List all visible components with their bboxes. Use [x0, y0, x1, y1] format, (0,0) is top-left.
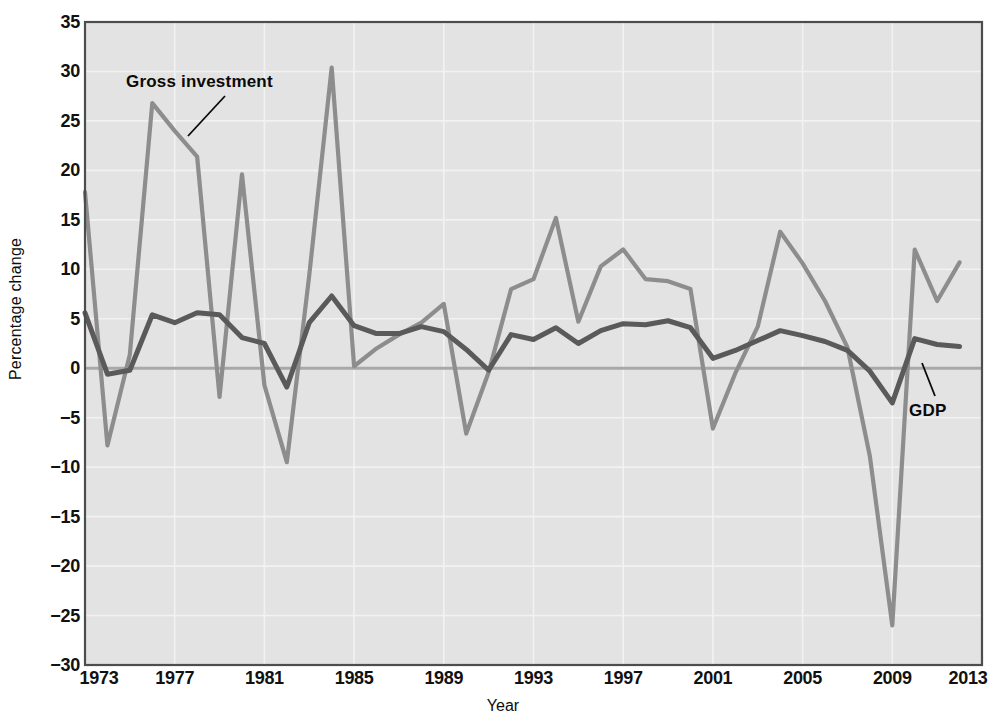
y-tick-label: −15	[18, 506, 80, 527]
y-tick-label: 0	[18, 358, 80, 379]
y-tick-label: −25	[18, 605, 80, 626]
y-axis-tick-labels: 35302520151050−5−10−15−20−25−30	[0, 0, 80, 726]
plot-area	[0, 0, 1006, 726]
x-tick-label: 2001	[693, 668, 732, 689]
x-tick-label: 1977	[155, 668, 194, 689]
x-axis-title: Year	[0, 697, 1006, 715]
x-tick-label: 2013	[949, 668, 988, 689]
annotation-gross-investment: Gross investment	[126, 72, 273, 92]
y-tick-label: −20	[18, 556, 80, 577]
y-tick-label: −5	[18, 407, 80, 428]
x-tick-label: 2009	[873, 668, 912, 689]
x-tick-label: 1981	[245, 668, 284, 689]
x-tick-label: 2005	[783, 668, 822, 689]
x-tick-label: 1989	[424, 668, 463, 689]
y-tick-label: 30	[18, 61, 80, 82]
annotation-gdp: GDP	[909, 401, 946, 421]
y-tick-label: 20	[18, 160, 80, 181]
y-tick-label: −10	[18, 457, 80, 478]
y-tick-label: 15	[18, 209, 80, 230]
x-tick-label: 1985	[335, 668, 374, 689]
y-tick-label: 5	[18, 308, 80, 329]
y-tick-label: 35	[18, 12, 80, 33]
x-tick-label: 1997	[604, 668, 643, 689]
y-tick-label: −30	[18, 655, 80, 676]
y-tick-label: 10	[18, 259, 80, 280]
x-tick-label: 1973	[80, 668, 119, 689]
x-tick-label: 1993	[514, 668, 553, 689]
chart-figure: Percentage change 35302520151050−5−10−15…	[0, 0, 1006, 726]
y-tick-label: 25	[18, 110, 80, 131]
